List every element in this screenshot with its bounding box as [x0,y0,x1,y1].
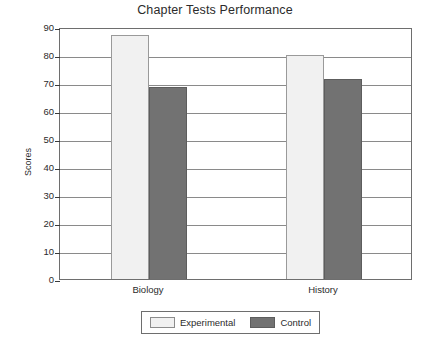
y-axis-tick-label: 40 [30,163,54,173]
y-axis-tick-label: 10 [30,247,54,257]
y-axis-tick-mark [55,29,60,30]
y-axis-tick-mark [55,57,60,58]
y-axis-tick-mark [55,169,60,170]
x-axis-tick-labels: BiologyHistory [59,284,412,300]
y-axis-tick-label: 20 [30,219,54,229]
bar-biology-control [149,87,187,279]
y-axis-tick-label: 30 [30,191,54,201]
y-axis-tick-label: 0 [30,275,54,285]
bar-biology-experimental [111,35,149,279]
y-axis-tick-label: 80 [30,51,54,61]
y-axis-tick-label: 70 [30,79,54,89]
y-axis-tick-mark [55,197,60,198]
bar-history-experimental [286,55,324,279]
legend-label-control: Control [280,318,311,328]
bar-history-control [324,79,362,279]
y-axis-tick-mark [55,141,60,142]
y-axis-tick-label: 60 [30,107,54,117]
x-axis-tick-label-history: History [308,284,338,295]
y-axis-tick-mark [55,253,60,254]
x-axis-tick-label-biology: Biology [132,284,163,295]
y-axis-tick-label: 50 [30,135,54,145]
legend-label-experimental: Experimental [180,318,235,328]
y-axis-tick-label: 90 [30,23,54,33]
y-axis-tick-mark [55,281,60,282]
y-axis-tick-labels: 9080706050403020100 [26,28,54,280]
y-axis-tick-mark [55,225,60,226]
chart-title: Chapter Tests Performance [0,3,430,17]
legend-swatch-experimental [150,317,175,328]
y-axis-tick-mark [55,85,60,86]
y-axis-tick-mark [55,113,60,114]
legend-swatch-control [250,317,275,328]
legend-entry-experimental[interactable]: Experimental [150,317,235,328]
bar-chart: Chapter Tests Performance Scores 9080706… [0,0,430,354]
chart-legend: ExperimentalControl [141,311,320,334]
legend-entry-control[interactable]: Control [250,317,311,328]
plot-area [59,28,412,280]
